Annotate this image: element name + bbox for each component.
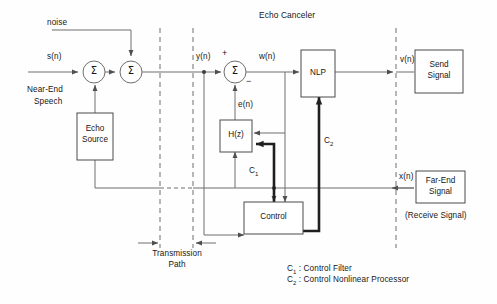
c2-control-nlp-path xyxy=(303,97,319,231)
hz-label: H(z) xyxy=(220,130,252,141)
sn-label: s(n) xyxy=(47,52,62,62)
diagram-title: Echo Canceler xyxy=(259,10,315,20)
yn-junction-dot xyxy=(202,70,206,74)
c2-label-sub: 2 xyxy=(330,141,333,147)
c1-label-sub: 1 xyxy=(255,171,258,177)
receive-signal-note: (Receive Signal) xyxy=(405,211,467,221)
noise-label: noise xyxy=(47,18,67,28)
echo-canceler-diagram: noise s(n) Near-End Speech y(n) w(n) v(n… xyxy=(0,0,497,304)
legend-c2-text: : Control Nonlinear Processor xyxy=(296,275,409,284)
c1-control-filter-path xyxy=(256,144,274,202)
send-signal-label-line2: Signal xyxy=(415,71,463,82)
summer-2-sigma: Σ xyxy=(124,65,138,76)
yn-label: y(n) xyxy=(196,52,211,62)
transmission-path-label-line1: Transmission xyxy=(138,249,216,259)
en-label: e(n) xyxy=(238,100,253,110)
vn-label: v(n) xyxy=(400,55,415,65)
summer-3-plus-sign: + xyxy=(222,48,227,58)
echo-source-label-line2: Source xyxy=(77,135,113,146)
wn-label: w(n) xyxy=(259,52,275,62)
summer-3-minus-sign: − xyxy=(246,76,251,86)
control-label: Control xyxy=(244,212,303,223)
send-signal-label-line1: Send xyxy=(415,60,463,71)
legend-line-c2: C2 : Control Nonlinear Processor xyxy=(287,274,409,289)
far-end-signal-label-line2: Signal xyxy=(416,187,465,198)
diagram-canvas xyxy=(0,0,497,304)
summer-3-sigma: Σ xyxy=(228,65,242,76)
summer-1-sigma: Σ xyxy=(87,65,101,76)
echo-source-label-line1: Echo xyxy=(77,124,113,135)
far-end-signal-label-line1: Far-End xyxy=(416,176,465,187)
near-end-speech-label-line1: Near-End xyxy=(27,85,63,95)
c2-label: C2 xyxy=(324,136,333,149)
nlp-label: NLP xyxy=(301,68,335,79)
transmission-path-label-line2: Path xyxy=(138,260,216,270)
near-end-speech-label-line2: Speech xyxy=(34,97,62,107)
legend-c1-text: : Control Filter xyxy=(296,264,351,273)
xn-label: x(n) xyxy=(399,172,414,182)
c1-label: C1 xyxy=(249,166,258,179)
